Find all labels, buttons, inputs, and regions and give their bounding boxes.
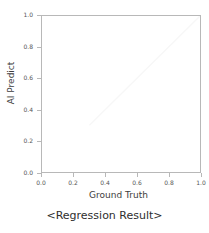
- plot-area: [41, 15, 201, 173]
- x-tick-mark: [137, 173, 138, 177]
- y-axis-label: AI Predict: [6, 43, 16, 123]
- regression-figure: 1.0 0.8 0.6 0.4 0.2 0.0 AI Predict 0.0 0…: [0, 0, 209, 233]
- x-tick-label: 0.8: [157, 179, 181, 186]
- y-tick-mark: [37, 110, 41, 111]
- y-tick-mark: [37, 78, 41, 79]
- figure-caption: <Regression Result>: [0, 209, 209, 222]
- y-tick-label: 0.4: [23, 105, 33, 115]
- y-tick-mark: [37, 141, 41, 142]
- identity-line-svg: [42, 16, 200, 172]
- y-tick-mark: [37, 47, 41, 48]
- x-tick-mark: [105, 173, 106, 177]
- x-tick-mark: [201, 173, 202, 177]
- y-tick-label: 0.8: [23, 42, 33, 52]
- x-tick-label: 0.4: [93, 179, 117, 186]
- y-tick-mark: [37, 15, 41, 16]
- x-tick-mark: [169, 173, 170, 177]
- y-tick-label: 0.6: [23, 73, 33, 83]
- x-axis: 0.0 0.2 0.4 0.6 0.8 1.0 Ground Truth: [0, 173, 209, 233]
- x-tick-label: 0.0: [29, 179, 53, 186]
- x-tick-mark: [41, 173, 42, 177]
- x-tick-label: 1.0: [189, 179, 209, 186]
- y-tick-label: 1.0: [23, 10, 33, 20]
- y-tick-label: 0.2: [23, 136, 33, 146]
- x-tick-label: 0.2: [61, 179, 85, 186]
- x-axis-label: Ground Truth: [0, 190, 209, 200]
- x-tick-mark: [73, 173, 74, 177]
- x-tick-label: 0.6: [125, 179, 149, 186]
- identity-line: [89, 16, 200, 125]
